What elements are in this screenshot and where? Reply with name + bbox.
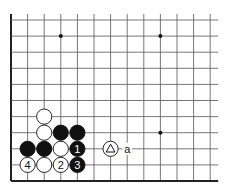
move-number: 4 (25, 159, 31, 171)
white-stone (103, 141, 118, 156)
black-stone: 3 (70, 157, 85, 172)
move-number: 3 (74, 159, 80, 171)
point-label: a (124, 143, 131, 155)
black-stone: 1 (70, 141, 85, 156)
white-stone (37, 157, 52, 172)
go-board: 1423 a (0, 0, 229, 196)
white-stone (37, 125, 52, 140)
black-stone (53, 125, 68, 140)
star-point (158, 34, 162, 38)
white-stone (53, 141, 68, 156)
black-stone (70, 125, 85, 140)
star-point (59, 34, 63, 38)
stones: 1423 (20, 109, 118, 172)
move-number: 2 (58, 159, 64, 171)
star-point (158, 131, 162, 135)
annotations: a (122, 143, 132, 155)
white-stone: 4 (20, 157, 35, 172)
black-stone (20, 141, 35, 156)
white-stone: 2 (53, 157, 68, 172)
move-number: 1 (74, 143, 80, 155)
black-stone (37, 141, 52, 156)
white-stone (37, 109, 52, 124)
